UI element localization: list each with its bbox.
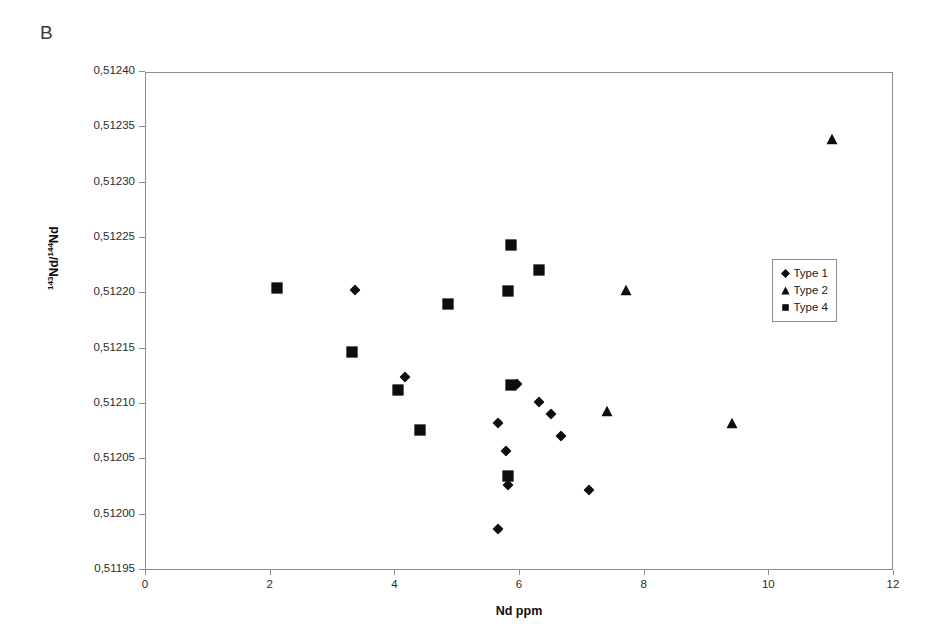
x-axis-tick-label: 6 <box>516 578 522 590</box>
data-point-diamond <box>583 485 594 496</box>
data-point-triangle <box>620 284 632 296</box>
y-axis-tick-label: 0,51210 <box>93 396 135 408</box>
triangle-icon <box>779 286 792 295</box>
data-point-square <box>442 298 454 310</box>
diamond-icon <box>779 269 792 278</box>
y-axis-tick-label: 0,51195 <box>94 562 135 574</box>
y-axis-title: 143Nd/144Nd <box>46 226 61 290</box>
data-point-triangle <box>726 417 738 429</box>
square-icon <box>779 304 792 311</box>
x-axis-title: Nd ppm <box>145 604 893 618</box>
x-axis-tick-mark <box>270 570 271 575</box>
x-axis-tick-mark <box>519 570 520 575</box>
y-axis-tick-label: 0,51220 <box>93 285 135 297</box>
data-point-diamond <box>533 396 544 407</box>
data-point-diamond <box>399 372 410 383</box>
data-point-square <box>533 264 545 276</box>
chart-legend: Type 1Type 2Type 4 <box>772 259 837 322</box>
x-axis-tick-mark <box>768 570 769 575</box>
data-point-square <box>505 239 517 251</box>
y-axis-tick-label: 0,51200 <box>93 507 135 519</box>
x-axis-tick-label: 2 <box>266 578 272 590</box>
data-point-square <box>502 285 514 297</box>
data-point-square <box>392 384 404 396</box>
data-point-diamond <box>493 417 504 428</box>
x-axis-tick-mark <box>644 570 645 575</box>
data-point-square <box>502 470 514 482</box>
legend-item-label: Type 2 <box>793 284 828 296</box>
data-point-diamond <box>546 408 557 419</box>
x-axis-tick-mark <box>893 570 894 575</box>
data-point-diamond <box>501 446 512 457</box>
x-axis-tick-label: 4 <box>391 578 397 590</box>
y-axis-tick-label: 0,51225 <box>93 230 135 242</box>
y-axis-tick-label: 0,51215 <box>93 341 135 353</box>
legend-item-type-4[interactable]: Type 4 <box>779 299 828 316</box>
data-point-diamond <box>349 284 360 295</box>
x-axis-tick-label: 12 <box>887 578 900 590</box>
data-point-square <box>505 379 517 391</box>
data-point-triangle <box>601 405 613 417</box>
panel-label: B <box>40 22 53 44</box>
data-point-square <box>414 424 426 436</box>
x-axis-tick-label: 0 <box>142 578 148 590</box>
x-axis-tick-label: 8 <box>640 578 646 590</box>
y-axis: 0,511950,512000,512050,512100,512150,512… <box>0 0 145 644</box>
x-axis-tick-mark <box>394 570 395 575</box>
y-axis-tick-label: 0,51235 <box>93 119 135 131</box>
x-axis-tick-mark <box>145 570 146 575</box>
data-point-square <box>346 346 358 358</box>
data-point-triangle <box>826 133 838 145</box>
figure-panel-b: B 143Nd/144Nd 0,511950,512000,512050,512… <box>0 0 946 644</box>
y-axis-tick-label: 0,51240 <box>93 64 135 76</box>
legend-item-label: Type 1 <box>793 267 828 279</box>
y-axis-tick-label: 0,51205 <box>93 451 135 463</box>
legend-item-type-2[interactable]: Type 2 <box>779 282 828 299</box>
legend-item-type-1[interactable]: Type 1 <box>779 265 828 282</box>
y-axis-tick-label: 0,51230 <box>93 175 135 187</box>
plot-area: Type 1Type 2Type 4 <box>145 72 893 570</box>
data-point-diamond <box>493 523 504 534</box>
legend-item-label: Type 4 <box>793 301 828 313</box>
x-axis-tick-label: 10 <box>762 578 775 590</box>
data-point-square <box>271 282 283 294</box>
data-point-diamond <box>555 430 566 441</box>
